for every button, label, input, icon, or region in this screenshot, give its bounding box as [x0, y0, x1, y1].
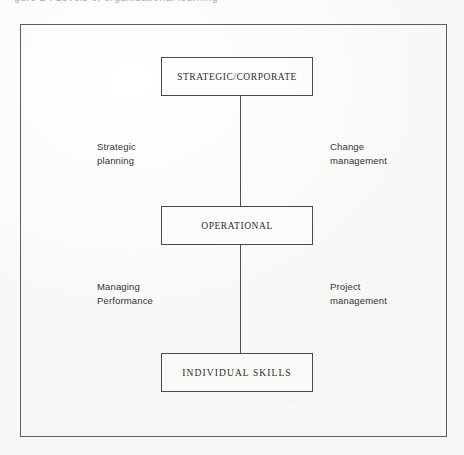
edge-label-strategic-planning-line2: planning — [97, 154, 136, 168]
diagram-frame: STRATEGIC/CORPORATE OPERATIONAL INDIVIDU… — [20, 24, 447, 437]
edge-label-project-management: Project management — [330, 280, 387, 307]
node-operational[interactable]: OPERATIONAL — [161, 206, 313, 245]
edge-label-strategic-planning: Strategic planning — [97, 140, 136, 167]
node-individual-skills[interactable]: INDIVIDUAL SKILLS — [161, 353, 313, 392]
scanned-page: gure 2 : Levels of organisational learni… — [0, 0, 464, 455]
node-individual-skills-label: INDIVIDUAL SKILLS — [182, 368, 291, 378]
edge-label-project-management-line2: management — [330, 294, 387, 308]
edge-label-change-management-line2: management — [330, 154, 387, 168]
edge-label-managing-performance: Managing Performance — [97, 280, 153, 307]
edge-label-change-management: Change management — [330, 140, 387, 167]
edge-label-managing-performance-line2: Performance — [97, 294, 153, 308]
edge-label-change-management-line1: Change — [330, 140, 387, 154]
node-strategic-corporate[interactable]: STRATEGIC/CORPORATE — [161, 57, 313, 96]
edge-label-strategic-planning-line1: Strategic — [97, 140, 136, 154]
connector-strategic-to-operational — [240, 96, 241, 206]
edge-label-managing-performance-line1: Managing — [97, 280, 153, 294]
edge-label-project-management-line1: Project — [330, 280, 387, 294]
node-operational-label: OPERATIONAL — [201, 221, 273, 231]
connector-operational-to-individual — [240, 245, 241, 353]
node-strategic-corporate-label: STRATEGIC/CORPORATE — [177, 72, 297, 82]
figure-caption: gure 2 : Levels of organisational learni… — [14, 0, 218, 3]
